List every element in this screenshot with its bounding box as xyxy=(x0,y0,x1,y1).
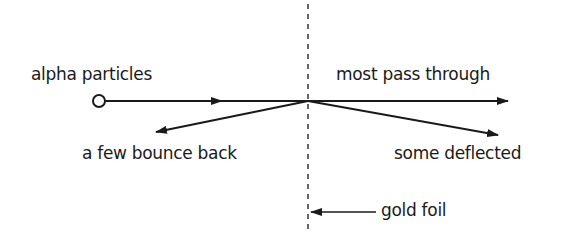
label-gold-foil: gold foil xyxy=(381,200,446,220)
label-some-deflected: some deflected xyxy=(394,143,521,163)
rutherford-diagram: alpha particles most pass through a few … xyxy=(0,0,563,238)
deflected-arrow xyxy=(308,101,498,135)
diagram-graphics xyxy=(0,0,563,238)
label-few-bounce-back: a few bounce back xyxy=(82,143,237,163)
bounce-back-arrow xyxy=(156,101,308,132)
label-most-pass-through: most pass through xyxy=(336,64,490,84)
label-alpha-particles: alpha particles xyxy=(31,64,152,84)
particle-source-icon xyxy=(93,95,105,107)
